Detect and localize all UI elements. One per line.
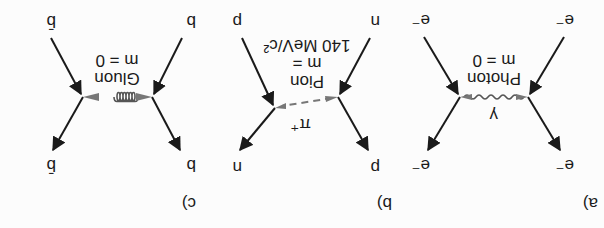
particle-label: n <box>371 12 380 31</box>
particle-label: e⁻ <box>556 156 574 175</box>
pion-vertex-tip-left <box>325 96 338 102</box>
particle-label: b̄ <box>47 12 56 31</box>
particle-label: n <box>233 158 242 177</box>
particle-label: p <box>233 12 242 31</box>
fermion-line-in-right <box>424 37 458 94</box>
mediator-mass: m = 0 <box>473 51 516 70</box>
fermion-line-out-right <box>53 97 83 150</box>
fermion-line-out-left <box>528 97 560 150</box>
mediator-symbol: π⁺ <box>290 115 311 134</box>
fermion-line-in-left <box>154 38 182 94</box>
feynman-diagrams-figure: e⁻ e⁻ e⁻ e⁻ γ Photon m = 0 a) n p p n π⁺ <box>0 0 604 228</box>
particle-label: b̄ <box>47 156 56 175</box>
particle-label: b <box>187 156 196 175</box>
photon-wavy-line <box>464 95 524 99</box>
mediator-name: Gluon <box>94 69 139 88</box>
particle-label: e⁻ <box>412 11 430 30</box>
mediator-mass-line1: m = <box>293 54 322 73</box>
fermion-line-out-left <box>152 97 180 150</box>
panel-c-gluon-exchange: b b̄ b b̄ Gluon m = 0 c) <box>47 12 196 213</box>
particle-label: e⁻ <box>556 11 574 30</box>
fermion-line-out-right <box>428 97 460 150</box>
gluon-vertex-tip-right <box>83 93 99 101</box>
fermion-line-out-left <box>338 97 368 150</box>
mediator-mass: m = 0 <box>96 51 139 70</box>
particle-label: b <box>187 12 196 31</box>
mediator-name: Pion <box>290 72 324 91</box>
fermion-line-out-right <box>240 108 275 150</box>
fermion-line-in-left <box>530 37 564 94</box>
panel-a-photon-exchange: e⁻ e⁻ e⁻ e⁻ γ Photon m = 0 a) <box>412 11 598 213</box>
panel-label-c: c) <box>182 194 196 213</box>
pion-dashed-line <box>282 98 332 106</box>
mediator-mass-line2: 140 MeV/c² <box>263 36 350 55</box>
gluon-coil-line <box>114 93 138 102</box>
gluon-vertex-tip-left <box>136 93 152 101</box>
fermion-line-in-right <box>51 38 81 94</box>
mediator-name: Photon <box>467 69 521 88</box>
mediator-symbol: γ <box>489 106 498 125</box>
panel-label-b: b) <box>377 194 392 213</box>
panel-label-a: a) <box>583 194 598 213</box>
particle-label: p <box>371 158 380 177</box>
particle-label: e⁻ <box>412 156 430 175</box>
panel-b-pion-exchange: n p p n π⁺ Pion m = 140 MeV/c² b) <box>233 12 392 213</box>
pion-vertex-tip-right <box>275 103 286 109</box>
